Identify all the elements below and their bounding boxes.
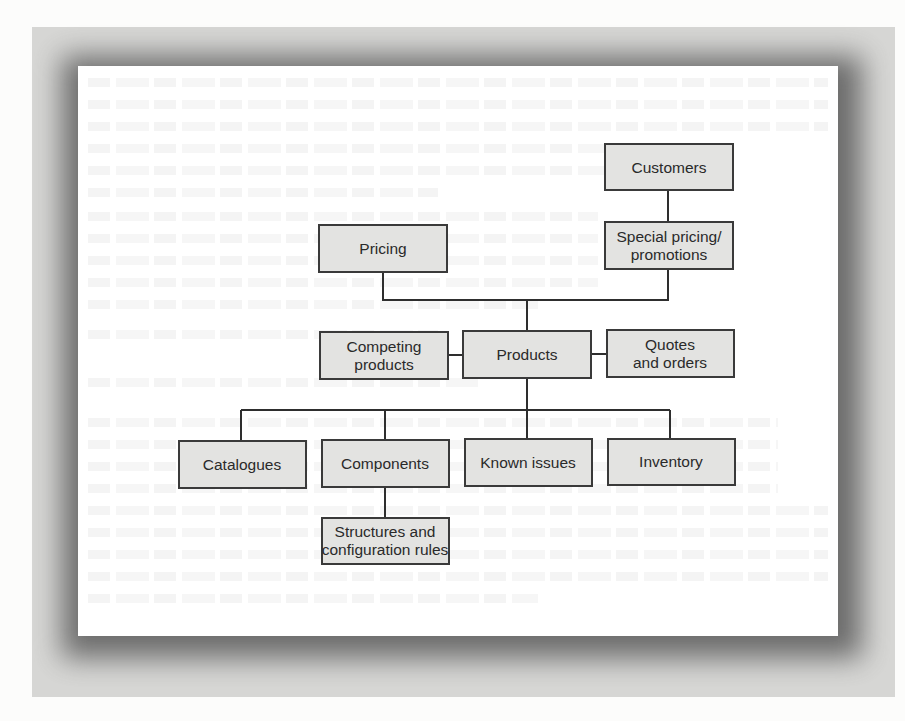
node-inventory: Inventory — [608, 439, 735, 485]
node-label-line-2: promotions — [631, 246, 708, 263]
node-special-pricing: Special pricing/ promotions — [605, 222, 733, 269]
node-label: Components — [341, 455, 429, 472]
node-label-line-2: products — [354, 356, 414, 373]
node-label: Pricing — [359, 240, 406, 257]
node-label: Catalogues — [203, 456, 282, 473]
node-label-line-1: Quotes — [645, 336, 695, 353]
edge-pricing-products — [383, 272, 527, 300]
node-label-line-1: Competing — [347, 338, 422, 355]
node-pricing: Pricing — [319, 225, 447, 272]
edge-special-pricing-products — [527, 269, 668, 300]
node-competing-products: Competing products — [320, 332, 448, 379]
node-label: Products — [496, 346, 557, 363]
node-known-issues: Known issues — [465, 439, 592, 486]
node-label-line-2: and orders — [633, 354, 707, 371]
node-label-line-2: configuration rules — [322, 541, 449, 558]
node-quotes-orders: Quotes and orders — [607, 330, 734, 377]
node-components: Components — [322, 440, 449, 487]
node-label: Inventory — [639, 453, 703, 470]
node-customers: Customers — [605, 144, 733, 190]
node-label-line-1: Structures and — [335, 523, 436, 540]
node-label-line-1: Special pricing/ — [616, 228, 722, 245]
node-products: Products — [463, 331, 591, 378]
node-structures: Structures and configuration rules — [322, 518, 449, 564]
node-catalogues: Catalogues — [179, 441, 306, 488]
hierarchy-diagram: Customers Special pricing/ promotions Pr… — [0, 0, 905, 721]
node-label: Customers — [632, 159, 707, 176]
node-label: Known issues — [480, 454, 576, 471]
